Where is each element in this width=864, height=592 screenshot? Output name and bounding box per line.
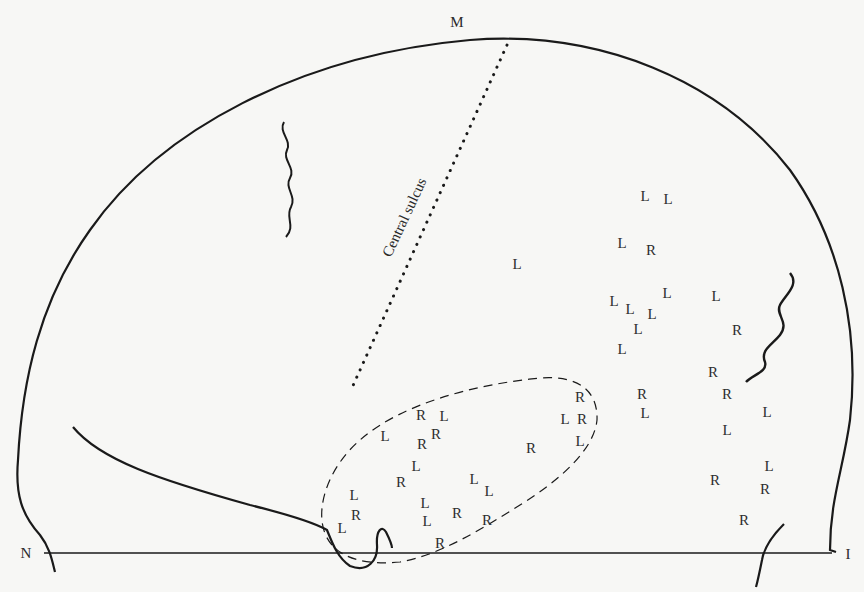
point-right: R bbox=[396, 475, 406, 490]
point-right: R bbox=[526, 441, 536, 456]
point-right: R bbox=[732, 323, 742, 338]
landmark-n: N bbox=[21, 546, 32, 561]
point-right: R bbox=[637, 387, 647, 402]
point-right: R bbox=[416, 408, 426, 423]
point-right: R bbox=[417, 437, 427, 452]
head-outline bbox=[17, 39, 852, 572]
landmark-i: I bbox=[846, 547, 851, 562]
mastoid-mark bbox=[756, 524, 784, 587]
point-left: L bbox=[380, 429, 389, 444]
central-sulcus-line bbox=[351, 45, 507, 390]
point-left: L bbox=[633, 322, 642, 337]
point-left: L bbox=[469, 472, 478, 487]
point-right: R bbox=[739, 513, 749, 528]
point-right: R bbox=[482, 513, 492, 528]
point-left: L bbox=[640, 406, 649, 421]
point-left: L bbox=[560, 412, 569, 427]
point-right: R bbox=[710, 473, 720, 488]
point-left: L bbox=[411, 459, 420, 474]
point-left: L bbox=[711, 289, 720, 304]
point-left: L bbox=[647, 307, 656, 322]
point-left: L bbox=[640, 189, 649, 204]
sylvian-fissure bbox=[73, 427, 392, 568]
point-left: L bbox=[722, 423, 731, 438]
point-left: L bbox=[337, 521, 346, 536]
point-right: R bbox=[708, 365, 718, 380]
landmark-m: M bbox=[450, 15, 463, 30]
squiggle-occipital bbox=[746, 273, 793, 382]
point-right: R bbox=[435, 536, 445, 551]
point-left: L bbox=[484, 484, 493, 499]
point-left: L bbox=[575, 434, 584, 449]
point-left: L bbox=[439, 409, 448, 424]
point-left: L bbox=[617, 342, 626, 357]
point-left: L bbox=[609, 294, 618, 309]
point-left: L bbox=[349, 488, 358, 503]
point-left: L bbox=[764, 459, 773, 474]
point-right: R bbox=[351, 508, 361, 523]
point-left: L bbox=[420, 496, 429, 511]
point-left: L bbox=[762, 405, 771, 420]
dashed-region bbox=[322, 378, 597, 563]
point-right: R bbox=[431, 427, 441, 442]
point-left: L bbox=[422, 514, 431, 529]
point-left: L bbox=[625, 302, 634, 317]
point-right: R bbox=[575, 390, 585, 405]
point-left: L bbox=[512, 257, 521, 272]
point-left: L bbox=[662, 286, 671, 301]
point-left: L bbox=[617, 236, 626, 251]
diagram-lines bbox=[0, 0, 864, 592]
brain-lateral-diagram: M N I Central sulcus LLLRLLLLLLLRLRRRLLL… bbox=[0, 0, 864, 592]
point-left: L bbox=[663, 192, 672, 207]
point-right: R bbox=[760, 482, 770, 497]
point-right: R bbox=[722, 387, 732, 402]
point-right: R bbox=[646, 243, 656, 258]
point-right: R bbox=[452, 506, 462, 521]
squiggle-frontal bbox=[282, 122, 292, 237]
point-right: R bbox=[577, 412, 587, 427]
